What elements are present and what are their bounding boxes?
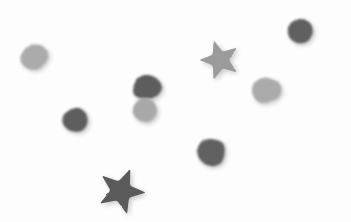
shapes-illustration: Light gray rounded blobDark gray rounded…: [0, 0, 351, 222]
paper-grain-overlay: [0, 0, 351, 222]
shapes-canvas: Light gray rounded blobDark gray rounded…: [0, 0, 351, 222]
